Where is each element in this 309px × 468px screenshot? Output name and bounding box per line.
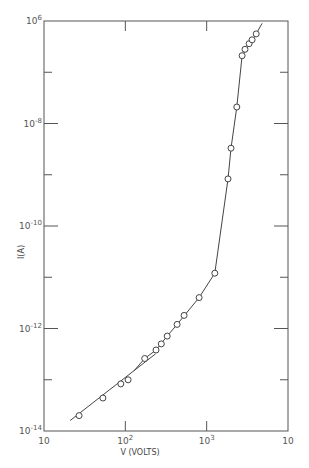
x-tick-label: 103 bbox=[199, 434, 215, 446]
x-tick-label: 102 bbox=[117, 434, 133, 446]
iv-chart: 101021031010610-810-1010-1210-14 V (VOLT… bbox=[0, 0, 309, 468]
data-point bbox=[239, 53, 245, 59]
data-point bbox=[234, 104, 240, 110]
x-tick-label: 10 bbox=[38, 436, 50, 446]
data-point bbox=[196, 295, 202, 301]
data-point bbox=[158, 341, 164, 347]
data-point bbox=[228, 145, 234, 151]
data-point bbox=[242, 46, 248, 52]
data-point bbox=[142, 356, 148, 362]
data-point bbox=[249, 37, 255, 43]
x-axis-title: V (VOLTS) bbox=[120, 448, 159, 457]
y-tick-label: 10-8 bbox=[24, 117, 42, 129]
main-curve bbox=[134, 23, 262, 370]
data-point bbox=[118, 381, 124, 387]
y-tick-label: 10-10 bbox=[19, 219, 42, 231]
y-tick-label: 10-12 bbox=[19, 322, 42, 334]
data-point bbox=[125, 377, 131, 383]
data-point bbox=[212, 270, 218, 276]
data-point bbox=[153, 347, 159, 353]
data-point bbox=[76, 413, 82, 419]
data-point bbox=[100, 395, 106, 401]
ohmic-fit-line bbox=[70, 354, 155, 421]
y-tick-label: 106 bbox=[26, 14, 42, 26]
data-point bbox=[181, 312, 187, 318]
x-tick-label: 10 bbox=[282, 436, 294, 446]
data-point bbox=[174, 321, 180, 327]
data-point bbox=[253, 31, 259, 37]
data-point bbox=[164, 333, 170, 339]
data-point bbox=[225, 176, 231, 182]
y-tick-label: 10-14 bbox=[19, 424, 42, 436]
y-axis-title: I(A) bbox=[17, 245, 26, 259]
plot-frame bbox=[44, 21, 288, 431]
